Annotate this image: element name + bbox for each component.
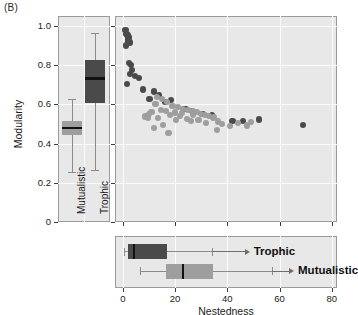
x-axis-title: Nestedness (115, 305, 337, 315)
scatter-y-tick (111, 26, 115, 27)
boxplot-box (85, 60, 105, 103)
scatter-y-tick (111, 183, 115, 184)
scatter-y-tick (111, 222, 115, 223)
scatter-y-tick (111, 144, 115, 145)
scatter-point (140, 86, 146, 92)
scatter-point (244, 122, 250, 128)
scatter-point (155, 115, 161, 121)
scatter-point (179, 110, 185, 116)
boxplot-whisker-cap (140, 267, 141, 275)
boxplot-whisker-cap (91, 33, 99, 34)
boxplot-label-arrowhead (289, 268, 294, 274)
gridline-vertical (332, 16, 333, 222)
scatter-y-tick (111, 65, 115, 66)
gridline-vertical (280, 16, 281, 222)
x-axis-tick (332, 288, 333, 292)
y-axis-title: Modularity (12, 84, 24, 164)
scatter-point (136, 75, 142, 81)
scatter-point (152, 101, 158, 107)
scatter-point (188, 118, 194, 124)
x-axis-tick (227, 288, 228, 292)
boxplot-whisker (72, 99, 73, 172)
panel-label: (B) (4, 2, 18, 13)
y-axis-tick (54, 144, 58, 145)
scatter-point (214, 127, 220, 133)
gridline-vertical (227, 236, 228, 288)
scatter-point (256, 116, 262, 122)
scatter-x-tick (332, 222, 333, 226)
y-axis-tick (54, 222, 58, 223)
x-axis-tick-label: 60 (266, 293, 294, 304)
gridline-horizontal (115, 183, 337, 184)
gridline-vertical (123, 236, 124, 288)
boxplot-group-label: Mutualistic (76, 167, 87, 214)
y-axis-tick (54, 104, 58, 105)
boxplot-median (85, 77, 105, 79)
boxplot-label-arrowhead (245, 249, 250, 255)
boxplot-median (182, 264, 184, 279)
x-axis-tick-label: 20 (161, 293, 189, 304)
gridline-horizontal (115, 26, 337, 27)
y-axis-tick-label: 0.2 (0, 177, 51, 188)
boxplot-median (133, 244, 135, 259)
scatter-x-tick (175, 222, 176, 226)
x-axis-tick (175, 288, 176, 292)
x-axis-tick (123, 288, 124, 292)
x-axis-tick-label: 80 (318, 293, 346, 304)
scatter-point (235, 120, 241, 126)
y-axis-tick (54, 183, 58, 184)
y-axis-tick-label: 0 (0, 216, 51, 227)
scatter-x-tick (280, 222, 281, 226)
scatter-x-tick (123, 222, 124, 226)
x-axis-tick (280, 288, 281, 292)
boxplot-whisker-cap (91, 170, 99, 171)
boxplot-whisker-cap (68, 99, 76, 100)
gridline-horizontal (115, 104, 337, 105)
y-axis-tick-label: 0.8 (0, 59, 51, 70)
scatter-point (190, 111, 196, 117)
y-axis-tick (54, 26, 58, 27)
x-axis-tick-label: 0 (109, 293, 137, 304)
y-axis-tick-label: 1.0 (0, 20, 51, 31)
scatter-point (165, 130, 171, 136)
scatter-point (124, 81, 130, 87)
x-axis-tick-label: 40 (213, 293, 241, 304)
boxplot-whisker-cap (124, 248, 125, 256)
boxplot-group-label: Trophic (254, 245, 296, 257)
y-axis-tick-label: 0.6 (0, 98, 51, 109)
boxplot-median (62, 127, 82, 129)
boxplot-group-label: Mutualistic (298, 264, 358, 276)
scatter-point (123, 42, 129, 48)
boxplot-whisker-cap (68, 172, 76, 173)
y-axis-tick-label: 0.4 (0, 138, 51, 149)
scatter-point (146, 96, 152, 102)
scatter-point (300, 122, 306, 128)
gridline-vertical (332, 236, 333, 288)
scatter-point (167, 112, 173, 118)
boxplot-label-leader (212, 251, 247, 252)
gridline-horizontal (115, 65, 337, 66)
gridline-vertical (227, 16, 228, 222)
scatter-y-tick (111, 104, 115, 105)
gridline-horizontal (115, 144, 337, 145)
y-axis-tick (54, 65, 58, 66)
scatter-x-tick (227, 222, 228, 226)
gridline-vertical (175, 236, 176, 288)
scatter-point (146, 111, 152, 117)
boxplot-box (166, 264, 213, 279)
scatter-point (195, 117, 201, 123)
boxplot-group-label: Trophic (99, 181, 110, 214)
